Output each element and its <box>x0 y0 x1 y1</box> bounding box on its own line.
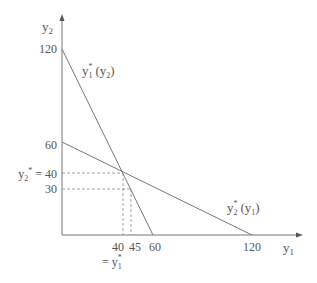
x-tick-60: 60 <box>149 240 161 254</box>
y-tick-30: 30 <box>45 182 57 196</box>
x-axis-label: y1 <box>283 240 294 257</box>
x-tick-120: 120 <box>243 240 261 254</box>
curve-y2-star-of-y1 <box>62 142 252 235</box>
y-tick-equilibrium-40: y2* = 40 <box>18 166 57 183</box>
y-axis-arrow-icon <box>60 14 65 21</box>
x-tick-equilibrium-note: = y1* <box>102 253 122 271</box>
y-tick-120: 120 <box>39 42 57 56</box>
x-axis-arrow-icon <box>296 233 303 238</box>
curve-label-y2-star: y*2(y1) <box>227 199 260 217</box>
y-axis-label: y2 <box>42 19 53 36</box>
curve-label-y1-star: y*1(y2) <box>82 62 115 80</box>
x-tick-40: 40 <box>112 240 124 254</box>
x-tick-45: 45 <box>129 240 141 254</box>
diagram-canvas: y2 y1 120 60 30 y2* = 40 40 45 60 120 = … <box>0 0 317 283</box>
y-tick-60: 60 <box>45 138 57 152</box>
